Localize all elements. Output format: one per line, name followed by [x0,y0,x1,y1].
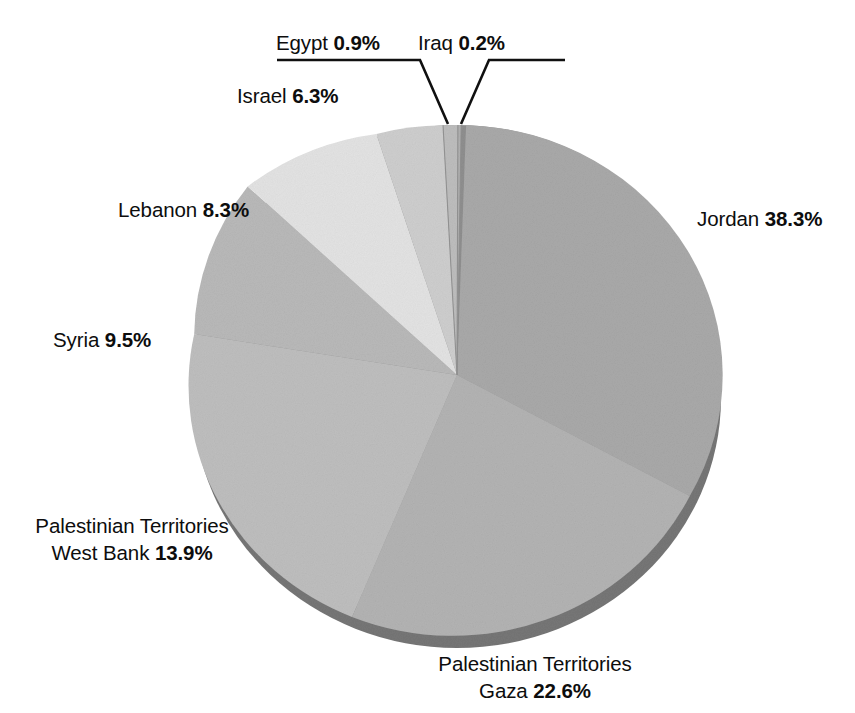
pie-chart-graphic [0,0,855,713]
slice-label-lebanon-value: 8.3% [203,198,249,221]
slice-label-syria: Syria 9.5% [53,327,151,352]
slice-label-west-bank-line2: West Bank [51,541,149,564]
slice-label-jordan-name: Jordan [697,207,759,230]
slice-label-syria-value: 9.5% [105,328,151,351]
slice-label-egypt-name: Egypt [276,31,328,54]
slice-label-gaza: Palestinian Territories Gaza 22.6% [424,650,646,704]
slice-label-west-bank: Palestinian Territories West Bank 13.9% [24,512,240,566]
slice-label-lebanon: Lebanon 8.3% [118,197,249,222]
leader-line-iraq [461,60,565,124]
pie-slices [189,125,723,636]
slice-label-iraq-name: Iraq [418,31,453,54]
slice-label-israel-value: 6.3% [292,84,338,107]
slice-label-syria-name: Syria [53,328,99,351]
slice-label-egypt: Egypt 0.9% [276,30,380,55]
slice-label-gaza-line2: Gaza [479,679,528,702]
slice-label-egypt-value: 0.9% [334,31,380,54]
slice-label-israel-name: Israel [237,84,287,107]
slice-label-iraq-value: 0.2% [459,31,505,54]
slice-label-west-bank-value: 13.9% [155,541,213,564]
pie-chart-figure: Egypt 0.9% Iraq 0.2% Israel 6.3% Lebanon… [0,0,855,713]
slice-label-jordan-value: 38.3% [765,207,823,230]
slice-label-lebanon-name: Lebanon [118,198,197,221]
slice-label-iraq: Iraq 0.2% [418,30,505,55]
slice-label-west-bank-line1: Palestinian Territories [35,514,228,537]
slice-label-jordan: Jordan 38.3% [697,206,822,231]
slice-label-gaza-value: 22.6% [533,679,591,702]
slice-label-gaza-line1: Palestinian Territories [438,652,631,675]
slice-label-israel: Israel 6.3% [237,83,338,108]
